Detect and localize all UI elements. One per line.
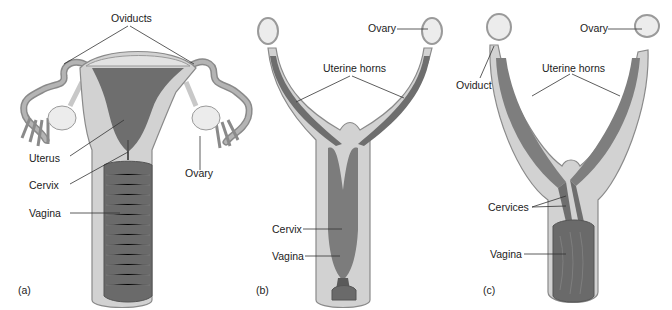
vagina-a bbox=[104, 161, 152, 302]
label-vagina-c: Vagina bbox=[490, 249, 522, 260]
label-vagina-b: Vagina bbox=[272, 251, 304, 262]
right-ovary-b bbox=[422, 18, 442, 44]
left-ovary bbox=[48, 106, 76, 130]
label-cervices-c: Cervices bbox=[488, 202, 529, 213]
label-uterine-horns-c: Uterine horns bbox=[542, 63, 605, 74]
label-oviduct-c: Oviduct bbox=[456, 80, 492, 91]
right-ovary bbox=[192, 106, 220, 130]
left-ovary-c bbox=[487, 14, 511, 40]
label-vagina-a: Vagina bbox=[29, 208, 61, 219]
left-ovary-b bbox=[258, 18, 278, 44]
label-cervix-a: Cervix bbox=[29, 180, 59, 191]
panel-label-a: (a) bbox=[18, 285, 31, 296]
panel-label-c: (c) bbox=[483, 285, 495, 296]
reproductive-tract-diagram bbox=[0, 0, 672, 310]
label-uterus-a: Uterus bbox=[29, 153, 60, 164]
label-cervix-b: Cervix bbox=[272, 224, 302, 235]
right-ovary-c bbox=[635, 15, 659, 37]
label-uterine-horns-b: Uterine horns bbox=[323, 63, 386, 74]
label-ovary-b: Ovary bbox=[368, 23, 396, 34]
vagina-b bbox=[332, 286, 356, 301]
label-ovary-c: Ovary bbox=[580, 23, 608, 34]
label-ovary-a: Ovary bbox=[185, 168, 213, 179]
label-oviducts-a: Oviducts bbox=[111, 13, 152, 24]
panel-a-illustration bbox=[22, 26, 249, 308]
vagina-c bbox=[553, 220, 594, 302]
panel-label-b: (b) bbox=[256, 285, 269, 296]
